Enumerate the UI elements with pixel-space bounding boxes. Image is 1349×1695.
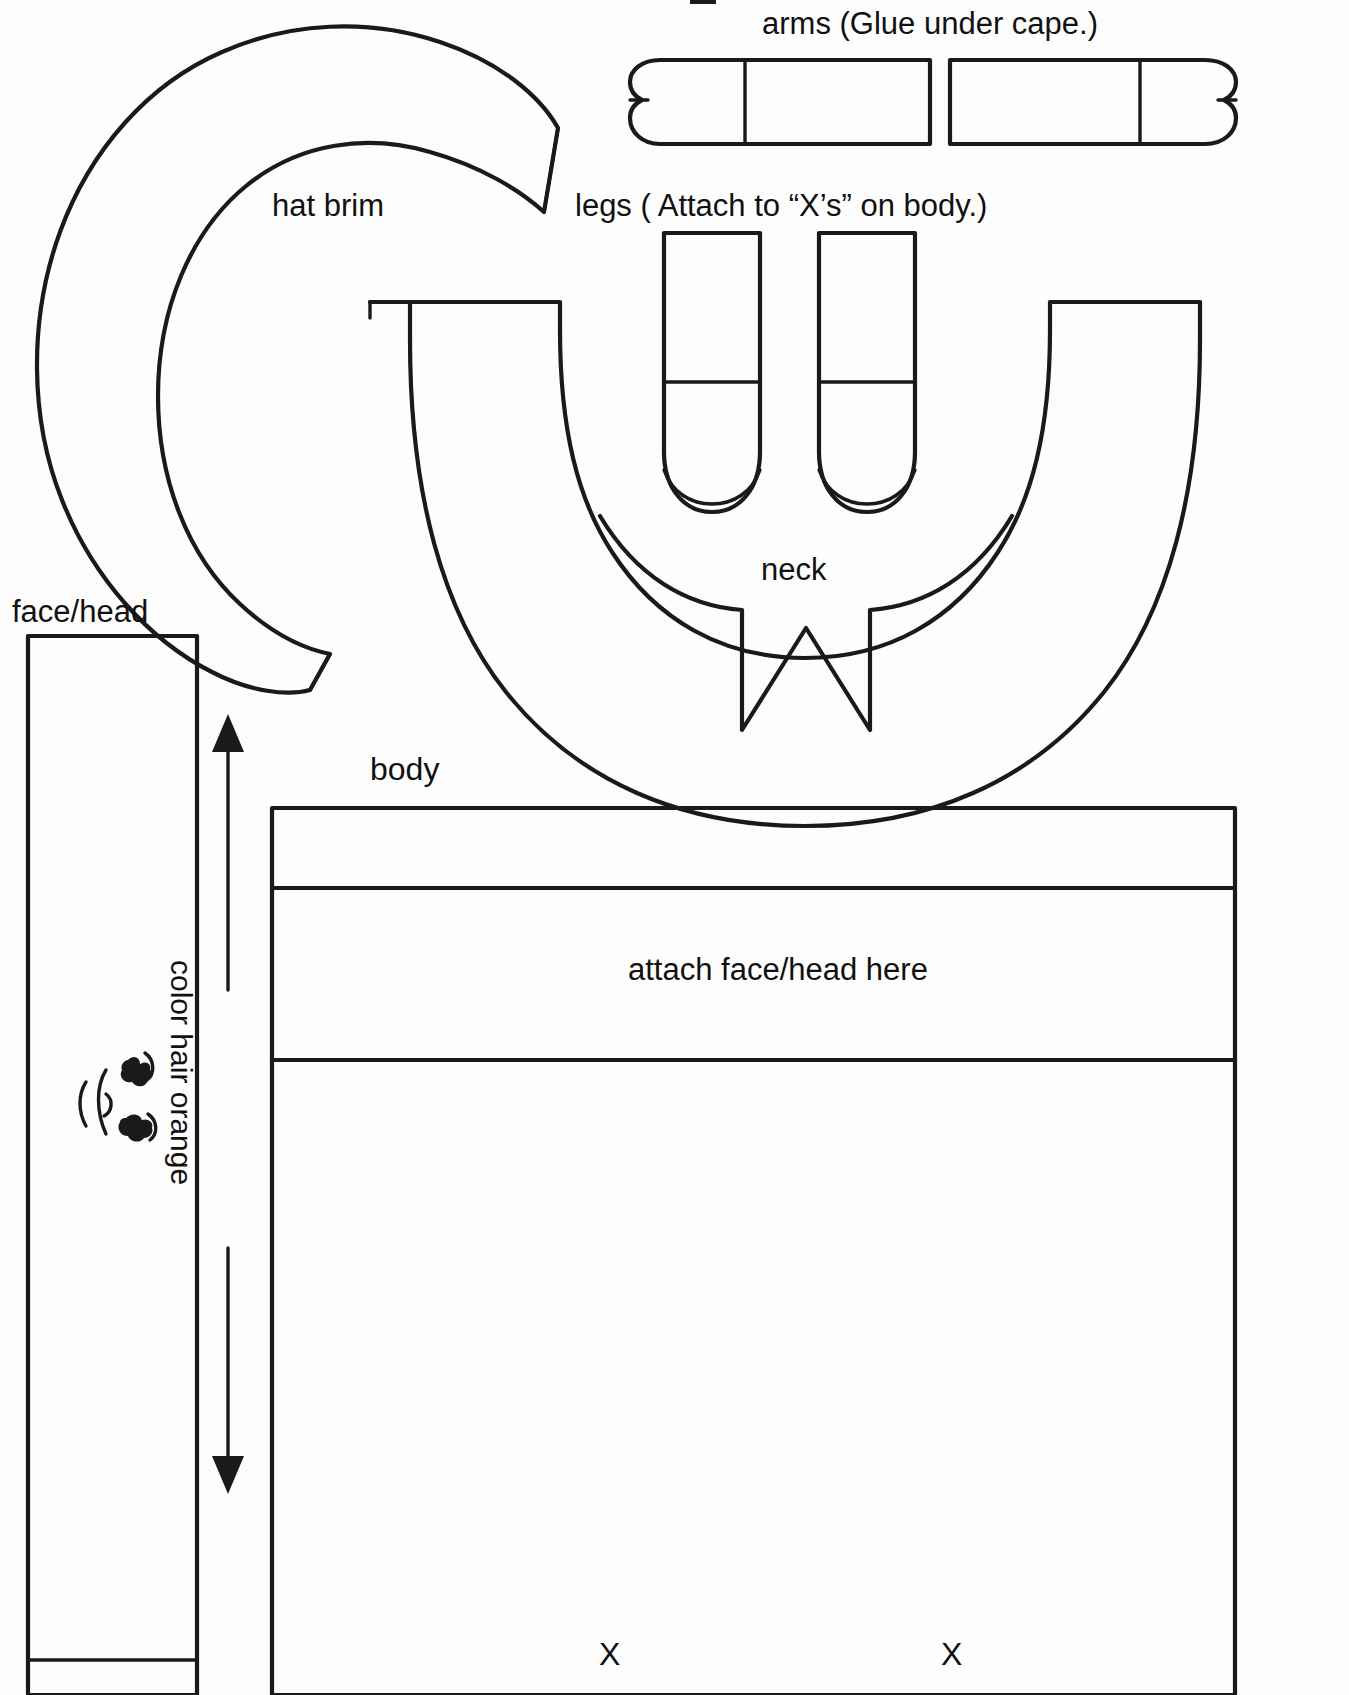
label-attach-face-head-here: attach face/head here [628, 954, 928, 985]
arm-left-shape [630, 60, 930, 144]
direction-arrow [212, 714, 244, 1494]
craft-template-page: arms (Glue under cape.) hat brim legs ( … [0, 0, 1349, 1695]
hat-brim-shape [37, 26, 558, 692]
leg-right-shape [819, 233, 915, 512]
label-x-mark-right: X [941, 1638, 962, 1670]
face-drawing [80, 1053, 156, 1142]
label-x-mark-left: X [599, 1638, 620, 1670]
label-body: body [370, 753, 439, 785]
label-arms: arms (Glue under cape.) [762, 8, 1098, 39]
template-linework [0, 0, 1349, 1695]
label-face-head: face/head [12, 596, 148, 627]
label-hat-brim: hat brim [272, 190, 384, 221]
leg-left-shape [664, 233, 760, 512]
arm-right-shape [950, 60, 1236, 144]
label-neck: neck [761, 554, 826, 585]
body-panel-shape [272, 808, 1235, 1695]
label-color-hair-orange: color hair orange [166, 960, 196, 1185]
label-legs: legs ( Attach to “X’s” on body.) [575, 190, 987, 221]
